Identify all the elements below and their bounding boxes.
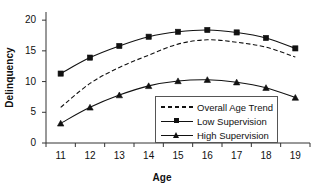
y-axis-tick-label: 0 <box>10 138 36 148</box>
y-axis-tick-label: 15 <box>10 46 36 56</box>
data-point-marker-low-supervision <box>87 55 92 60</box>
data-point-marker-high-supervision <box>87 104 93 110</box>
square-marker-line-sample-icon <box>160 115 194 127</box>
triangle-marker-line-sample-icon <box>160 129 194 141</box>
legend-label-high-supervision: High Supervision <box>194 130 269 141</box>
x-axis-tick-label: 15 <box>166 151 190 161</box>
x-axis-tick-label: 13 <box>107 151 131 161</box>
chart-legend: Overall Age Trend Low Supervision High S… <box>155 96 278 143</box>
x-axis-tick-label: 14 <box>137 151 161 161</box>
legend-label-low-supervision: Low Supervision <box>194 116 267 127</box>
x-axis-tick-label: 16 <box>195 151 219 161</box>
data-point-marker-low-supervision <box>205 27 210 32</box>
y-axis-tick-label: 5 <box>10 107 36 117</box>
x-axis-title: Age <box>0 172 324 183</box>
x-axis-tick-label: 19 <box>283 151 307 161</box>
x-axis-tick-label: 12 <box>78 151 102 161</box>
data-point-marker-high-supervision <box>116 92 122 98</box>
legend-item-low-supervision: Low Supervision <box>160 114 273 128</box>
x-axis-tick-label: 18 <box>254 151 278 161</box>
data-point-marker-low-supervision <box>234 30 239 35</box>
dashed-line-sample-icon <box>160 101 194 113</box>
data-point-marker-low-supervision <box>58 71 63 76</box>
x-axis-tick-label: 17 <box>225 151 249 161</box>
data-point-marker-low-supervision <box>175 29 180 34</box>
data-point-marker-high-supervision <box>292 95 298 101</box>
legend-item-high-supervision: High Supervision <box>160 128 273 142</box>
data-point-marker-low-supervision <box>293 46 298 51</box>
delinquency-by-age-chart: Delinquency 05101520 111213141516171819 … <box>0 0 324 194</box>
data-point-marker-low-supervision <box>117 43 122 48</box>
y-axis-tick-label: 20 <box>10 15 36 25</box>
x-axis-tick-label: 11 <box>49 151 73 161</box>
legend-item-overall-age-trend: Overall Age Trend <box>160 100 273 114</box>
y-axis-tick-label: 10 <box>10 77 36 87</box>
series-line-low-supervision <box>61 30 296 74</box>
data-point-marker-low-supervision <box>146 34 151 39</box>
legend-label-overall-age-trend: Overall Age Trend <box>194 102 273 113</box>
data-point-marker-high-supervision <box>57 120 63 126</box>
data-point-marker-low-supervision <box>263 35 268 40</box>
